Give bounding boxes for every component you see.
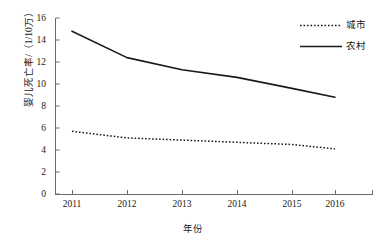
plot-area bbox=[0, 0, 386, 245]
line-chart: 婴儿死亡率/（1/10万） 16 14 12 10 8 6 4 2 0 2011… bbox=[0, 0, 386, 245]
series-line-urban bbox=[72, 131, 335, 149]
x-axis-ticks bbox=[73, 190, 373, 194]
series-line-rural bbox=[72, 31, 335, 97]
y-axis-ticks bbox=[56, 18, 60, 194]
